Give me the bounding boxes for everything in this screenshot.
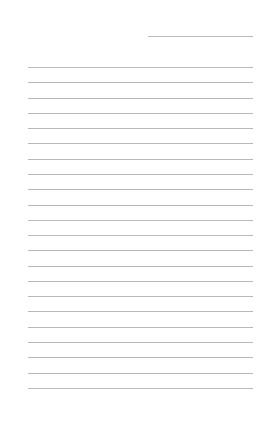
writing-line [28, 327, 253, 328]
writing-line [28, 250, 253, 251]
writing-line [28, 235, 253, 236]
writing-line [28, 281, 253, 282]
writing-line [28, 388, 253, 389]
writing-line [28, 159, 253, 160]
writing-line [28, 82, 253, 83]
writing-line [28, 311, 253, 312]
writing-line [28, 143, 253, 144]
writing-line [28, 342, 253, 343]
writing-line [28, 113, 253, 114]
writing-line [28, 266, 253, 267]
writing-line [28, 174, 253, 175]
writing-line [28, 296, 253, 297]
writing-line [28, 373, 253, 374]
writing-line [28, 357, 253, 358]
writing-line [28, 128, 253, 129]
writing-line [28, 205, 253, 206]
writing-line [28, 67, 253, 68]
writing-line [28, 189, 253, 190]
lined-paper-page [0, 0, 261, 448]
header-rule-line [148, 36, 253, 37]
writing-line [28, 98, 253, 99]
writing-line [28, 220, 253, 221]
